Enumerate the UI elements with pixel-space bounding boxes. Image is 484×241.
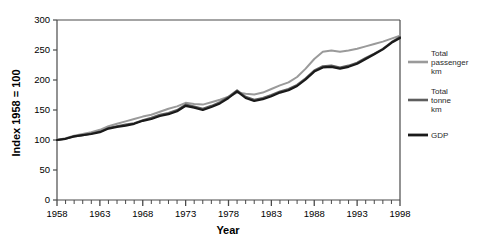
legend-label: passenger — [431, 58, 469, 67]
line-chart: Index 1958 = 100 Year 050100150200250300… — [0, 0, 484, 241]
x-tick-label: 1998 — [389, 208, 410, 219]
y-tick-label: 100 — [34, 134, 50, 145]
y-tick-label: 300 — [34, 14, 50, 25]
x-tick-label: 1963 — [89, 208, 110, 219]
x-tick-label: 1978 — [218, 208, 239, 219]
x-axis-title: Year — [216, 224, 240, 236]
chart-figure: Index 1958 = 100 Year 050100150200250300… — [0, 0, 484, 241]
y-tick-label: 50 — [39, 164, 50, 175]
x-tick-label: 1973 — [175, 208, 196, 219]
legend-label: tonne — [431, 96, 452, 105]
legend-label: Total — [431, 87, 448, 96]
y-tick-label: 150 — [34, 104, 50, 115]
legend-label: km — [431, 67, 442, 76]
legend-label: km — [431, 105, 442, 114]
y-tick-label: 200 — [34, 74, 50, 85]
x-tick-label: 1983 — [261, 208, 282, 219]
x-tick-label: 1958 — [46, 208, 67, 219]
y-axis-title: Index 1958 = 100 — [10, 69, 22, 156]
y-tick-label: 250 — [34, 44, 50, 55]
legend-label: Total — [431, 49, 448, 58]
chart-background — [0, 0, 484, 241]
x-tick-label: 1968 — [132, 208, 153, 219]
x-tick-label: 1988 — [304, 208, 325, 219]
legend-label: GDP — [431, 131, 448, 140]
x-tick-label: 1993 — [347, 208, 368, 219]
y-tick-label: 0 — [45, 194, 50, 205]
